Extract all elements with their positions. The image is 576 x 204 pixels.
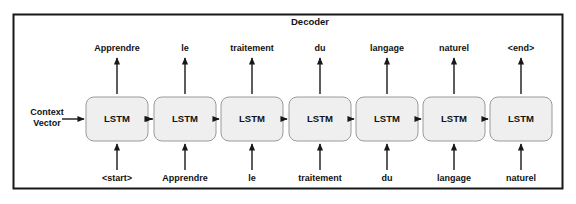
input-token-7: naturel: [506, 173, 536, 183]
context-vector-label-line1: Context: [30, 107, 64, 117]
output-token-1: Apprendre: [94, 43, 140, 53]
decoder-title: Decoder: [291, 16, 329, 27]
input-token-2: Apprendre: [162, 173, 208, 183]
output-token-4: du: [315, 43, 326, 53]
lstm-cell-6-label: LSTM: [441, 113, 467, 124]
output-token-5: langage: [370, 43, 404, 53]
output-token-7: <end>: [508, 43, 535, 53]
input-token-3: le: [248, 173, 256, 183]
input-token-4: traitement: [298, 173, 342, 183]
input-token-1: <start>: [102, 173, 132, 183]
lstm-cell-4-label: LSTM: [307, 113, 333, 124]
input-token-6: langage: [437, 173, 471, 183]
lstm-cell-3-label: LSTM: [239, 113, 265, 124]
input-token-5: du: [382, 173, 393, 183]
lstm-cell-1-label: LSTM: [104, 113, 130, 124]
output-token-3: traitement: [230, 43, 274, 53]
diagram-canvas: Decoder Context Vector LSTM Apprendre <s…: [0, 0, 576, 204]
lstm-cell-7-label: LSTM: [508, 113, 534, 124]
output-token-6: naturel: [439, 43, 469, 53]
output-token-2: le: [181, 43, 189, 53]
lstm-cell-2-label: LSTM: [172, 113, 198, 124]
context-vector-label-line2: Vector: [33, 118, 61, 128]
decoder-diagram: Decoder Context Vector LSTM Apprendre <s…: [0, 0, 576, 204]
lstm-cell-5-label: LSTM: [374, 113, 400, 124]
